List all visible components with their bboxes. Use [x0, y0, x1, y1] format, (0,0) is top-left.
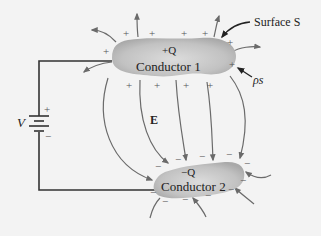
svg-text:+: +: [154, 79, 160, 91]
svg-text:−: −: [240, 174, 246, 186]
svg-text:−: −: [155, 160, 161, 172]
svg-text:−: −: [182, 193, 188, 205]
surface-charge-arrow: [238, 68, 252, 77]
field-label: E: [150, 113, 158, 127]
svg-text:−: −: [205, 189, 211, 201]
surface-pointer-arrow: [222, 22, 250, 37]
svg-text:+: +: [183, 79, 189, 91]
voltage-label: V: [17, 115, 27, 130]
circuit-wire: [39, 61, 160, 190]
surface-charge-label: ρs: [252, 73, 264, 87]
svg-text:−: −: [228, 183, 234, 195]
outer-field-lines: [150, 198, 160, 218]
battery-plus: +: [44, 103, 50, 115]
svg-text:+: +: [207, 79, 213, 91]
svg-text:−: −: [199, 150, 205, 162]
svg-text:+: +: [202, 27, 208, 39]
svg-text:+: +: [229, 58, 235, 70]
battery-icon: [29, 116, 49, 131]
svg-text:+: +: [227, 36, 233, 48]
conductor-2-label: Conductor 2: [161, 179, 226, 194]
conductor-2-charge: −Q: [181, 166, 195, 178]
svg-text:+: +: [149, 27, 155, 39]
svg-text:+: +: [123, 27, 129, 39]
svg-text:−: −: [244, 157, 250, 169]
battery-minus: −: [45, 130, 51, 142]
svg-text:−: −: [226, 148, 232, 160]
conductor-1-charge: +Q: [162, 44, 176, 56]
conductor-1-label: Conductor 1: [136, 59, 201, 74]
svg-text:+: +: [103, 45, 109, 57]
surface-label: Surface S: [254, 15, 300, 29]
svg-text:+: +: [181, 27, 187, 39]
svg-text:+: +: [126, 79, 132, 91]
svg-text:−: −: [162, 195, 168, 207]
svg-text:−: −: [175, 153, 181, 165]
svg-text:−: −: [150, 186, 156, 198]
capacitor-field-diagram: + − V +Q Conductor 1 + + + + + + + + +: [0, 0, 321, 236]
